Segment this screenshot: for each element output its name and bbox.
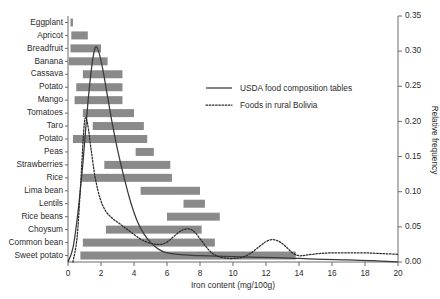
bar-lima-bean [141,187,200,195]
category-label: Eggplant [30,17,63,27]
category-label: Taro [47,120,64,130]
category-label: Rice beans [21,211,63,221]
x-tick-label: 12 [261,268,271,278]
y-tick-label: 0.15 [405,151,422,161]
x-tick-label: 18 [360,268,370,278]
category-label: Apricot [37,30,64,40]
bar-strawberries [104,161,170,169]
x-tick-label: 10 [228,268,238,278]
category-label: Potato [39,133,63,143]
bar-breadfruit [70,44,101,52]
category-label: Banana [34,56,63,66]
legend-label-usda: USDA food composition tables [240,83,352,93]
legend-label-bolivia: Foods in rural Bolivia [240,100,318,110]
category-label: Mango [38,94,64,104]
x-tick-label: 2 [99,268,104,278]
x-tick-label: 4 [132,268,137,278]
x-tick-label: 14 [294,268,304,278]
y-tick-label: 0.25 [405,80,422,90]
bar-apricot [71,31,88,39]
category-label: Cassava [31,68,64,78]
category-label: Common bean [9,237,64,247]
y-tick-label: 0.10 [405,186,422,196]
bar-rice-beans [167,213,220,221]
category-label: Sweet potato [15,250,64,260]
iron-content-chart: EggplantApricotBreadfruitBananaCassavaPo… [0,0,440,299]
category-label: Rice [46,172,63,182]
x-tick-label: 8 [198,268,203,278]
y-tick-label: 0.00 [405,256,422,266]
chart-container: EggplantApricotBreadfruitBananaCassavaPo… [0,0,440,299]
bar-eggplant [70,18,72,26]
category-label: Breadfruit [27,43,64,53]
bar-taro [93,122,144,130]
category-label: Strawberries [16,159,63,169]
category-label: Lentils [39,198,63,208]
x-tick-label: 20 [393,268,403,278]
category-label: Choysum [28,224,63,234]
y-tick-label: 0.35 [405,10,422,20]
y-tick-label: 0.30 [405,45,422,55]
bar-potato [76,83,122,91]
bar-peas [136,148,154,156]
bar-lentils [184,200,205,208]
category-label: Lima bean [24,185,63,195]
x-tick-label: 16 [327,268,337,278]
y-tick-label: 0.20 [405,116,422,126]
bar-mango [75,96,123,104]
bar-choysum [106,226,202,234]
category-label: Peas [44,146,63,156]
category-label: Potato [39,81,63,91]
x-tick-label: 0 [66,268,71,278]
x-axis-title: Iron content (mg/100g) [191,280,275,290]
y-tick-label: 0.05 [405,221,422,231]
x-tick-label: 6 [165,268,170,278]
bar-tomatoes [83,109,134,117]
category-label: Tomatoes [27,107,63,117]
y-axis-title: Relative frequency [430,106,440,176]
